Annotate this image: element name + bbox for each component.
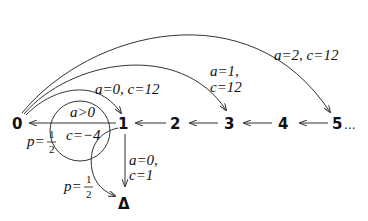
circle-label-action: a>0 bbox=[70, 104, 96, 120]
node-5: 5 bbox=[332, 115, 342, 133]
node-ellipsis: ... bbox=[344, 118, 355, 132]
node-2: 2 bbox=[170, 115, 180, 133]
node-0: 0 bbox=[12, 115, 22, 133]
prob-left-num: 1 bbox=[49, 128, 55, 140]
label-a1: a=1, bbox=[210, 63, 239, 79]
label-down-a: a=0, bbox=[129, 152, 158, 168]
node-4: 4 bbox=[278, 115, 288, 133]
label-a0-c12: a=0, c=12 bbox=[95, 81, 160, 97]
label-a2-c12: a=2, c=12 bbox=[274, 47, 339, 63]
prob-left-den: 2 bbox=[49, 143, 55, 155]
label-c12: c=12 bbox=[210, 79, 242, 95]
prob-left-p: p= bbox=[26, 133, 45, 149]
circle-label-cost: c=−4 bbox=[66, 127, 101, 143]
prob-bottom-num: 1 bbox=[86, 173, 92, 185]
node-1: 1 bbox=[118, 115, 128, 133]
prob-bottom-den: 2 bbox=[86, 188, 92, 200]
state-diagram: 0 1 2 3 4 5 ... Δ a>0 c=−4 a=0, c=12 a=1… bbox=[0, 0, 368, 221]
label-down-c: c=1 bbox=[129, 167, 153, 183]
node-delta: Δ bbox=[118, 195, 130, 213]
node-3: 3 bbox=[224, 115, 234, 133]
prob-bottom-p: p= bbox=[63, 178, 82, 194]
